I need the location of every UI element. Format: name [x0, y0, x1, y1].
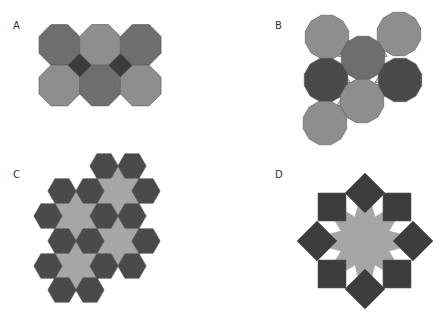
octagon-tile: [39, 65, 80, 106]
diamond-square: [345, 269, 385, 309]
octagon-tile: [80, 25, 121, 66]
dodecagon-tile: [340, 79, 383, 122]
corner-square: [383, 260, 411, 288]
panel-a-octagon-tiling: [39, 25, 161, 106]
diamond-square: [297, 221, 337, 261]
panel-c-hexagon-star-tiling: [34, 154, 160, 303]
dodecagon-tile: [377, 12, 420, 55]
corner-square: [318, 193, 346, 221]
panel-b-dodecagon-tiling: [303, 12, 421, 144]
octagon-tile: [120, 65, 161, 106]
dodecagon-tile: [303, 101, 346, 144]
tiling-figure: [0, 0, 443, 323]
diamond-square: [393, 221, 433, 261]
octagon-tile: [39, 25, 80, 66]
corner-square: [383, 193, 411, 221]
dodecagon-tile: [378, 58, 421, 101]
diamond-square: [345, 173, 385, 213]
dodecagon-tile: [341, 36, 384, 79]
corner-square: [318, 260, 346, 288]
octagon-tile: [80, 65, 121, 106]
panel-d-eight-point-star: [297, 173, 433, 309]
octagon-tile: [120, 25, 161, 66]
